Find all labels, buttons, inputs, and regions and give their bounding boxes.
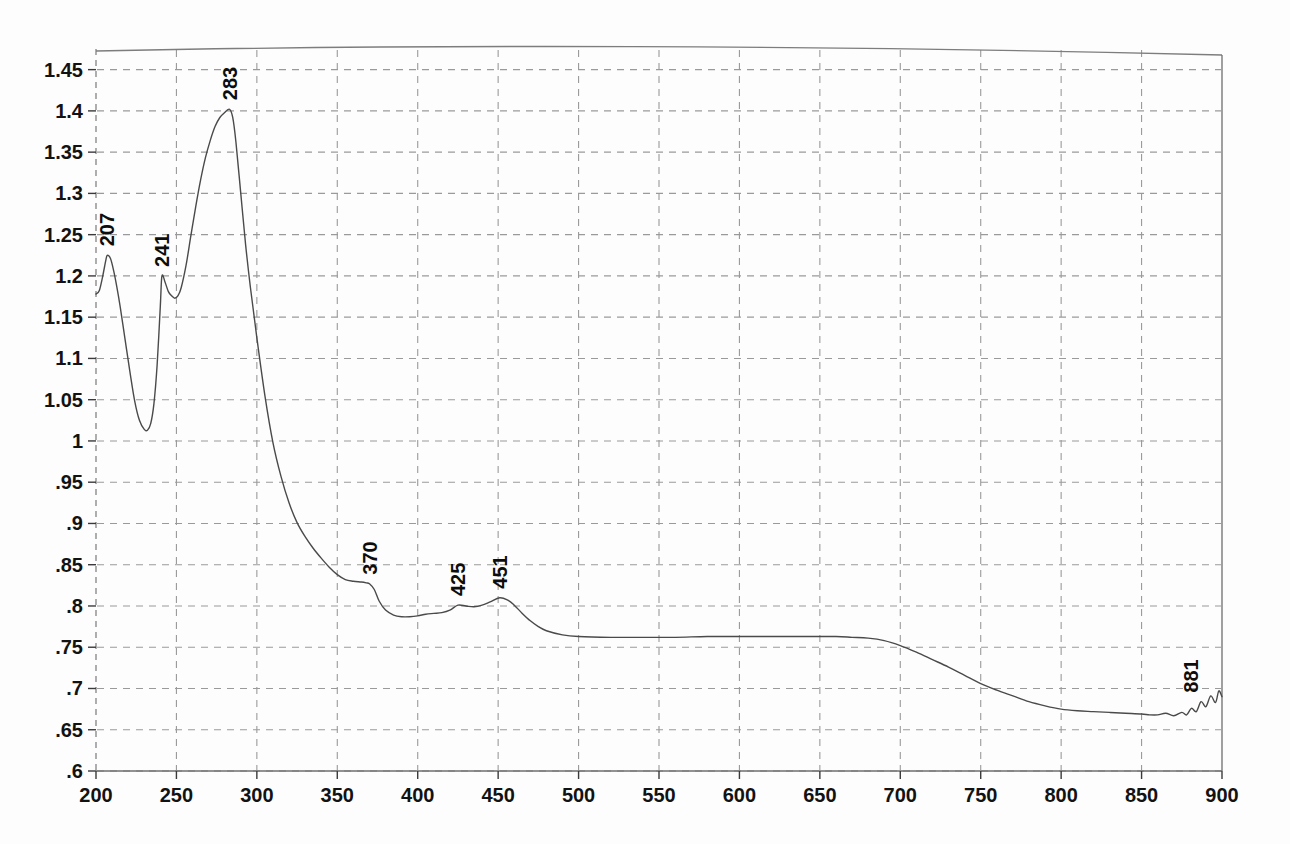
x-tick-label: 600 — [723, 784, 756, 806]
y-axis-tick-labels: .6.65.7.75.8.85.9.9511.051.11.151.21.251… — [44, 59, 84, 782]
y-tick-label: 1.2 — [55, 265, 83, 287]
peak-label: 425 — [447, 563, 469, 596]
peak-label: 241 — [151, 234, 173, 267]
x-tick-label: 250 — [160, 784, 193, 806]
x-tick-label: 700 — [884, 784, 917, 806]
x-axis-tick-labels: 2002503003504004505005506006507007508008… — [79, 784, 1238, 806]
y-tick-label: .8 — [66, 595, 83, 617]
x-tick-label: 550 — [642, 784, 675, 806]
x-tick-label: 650 — [803, 784, 836, 806]
y-tick-label: 1.3 — [55, 182, 83, 204]
x-tick-label: 500 — [562, 784, 595, 806]
x-tick-label: 200 — [79, 784, 112, 806]
x-tick-label: 450 — [481, 784, 514, 806]
x-tick-label: 300 — [240, 784, 273, 806]
y-tick-label: .75 — [55, 636, 83, 658]
x-tick-label: 850 — [1125, 784, 1158, 806]
y-tick-label: 1.1 — [55, 347, 83, 369]
x-tick-label: 900 — [1205, 784, 1238, 806]
x-tick-label: 800 — [1044, 784, 1077, 806]
peak-label: 881 — [1180, 659, 1202, 692]
y-tick-label: 1 — [72, 430, 83, 452]
y-tick-label: 1.35 — [44, 141, 83, 163]
y-tick-label: .95 — [55, 471, 83, 493]
y-tick-label: 1.25 — [44, 224, 83, 246]
x-tick-label: 350 — [321, 784, 354, 806]
y-tick-label: 1.45 — [44, 59, 83, 81]
y-tick-label: 1.05 — [44, 389, 83, 411]
grid-layer — [97, 50, 1221, 771]
x-tick-label: 750 — [964, 784, 997, 806]
peak-label: 451 — [489, 555, 511, 588]
y-tick-label: .65 — [55, 719, 83, 741]
y-tick-label: 1.15 — [44, 306, 83, 328]
peak-label: 207 — [96, 213, 118, 246]
spectrum-figure: .6.65.7.75.8.85.9.9511.051.11.151.21.251… — [0, 0, 1290, 844]
peak-label: 370 — [359, 541, 381, 574]
y-tick-label: .6 — [66, 760, 83, 782]
uv-vis-spectrum-plot: .6.65.7.75.8.85.9.9511.051.11.151.21.251… — [0, 0, 1290, 844]
x-tick-label: 400 — [401, 784, 434, 806]
chart-area: .6.65.7.75.8.85.9.9511.051.11.151.21.251… — [0, 0, 1290, 844]
y-tick-label: .7 — [66, 677, 83, 699]
peak-label: 283 — [219, 67, 241, 100]
y-tick-label: .9 — [66, 512, 83, 534]
y-tick-label: .85 — [55, 554, 83, 576]
tick-marks — [88, 70, 1222, 779]
y-tick-label: 1.4 — [55, 100, 84, 122]
